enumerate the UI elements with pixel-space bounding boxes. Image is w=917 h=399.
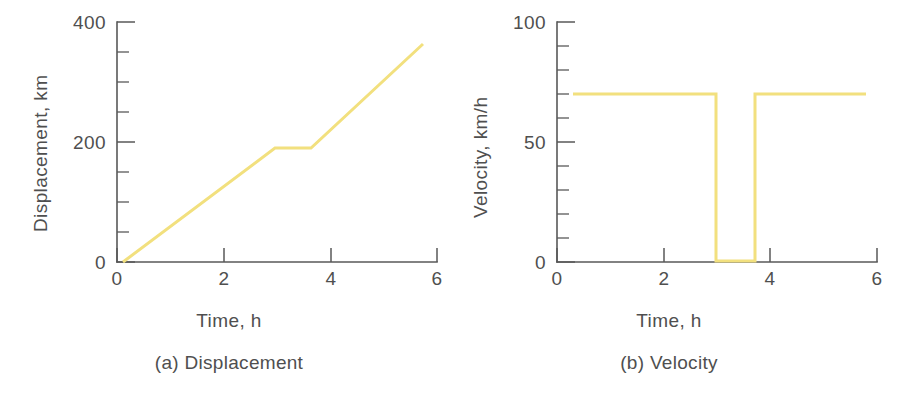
- panel-caption-b: (b) Velocity: [440, 352, 898, 374]
- y-tick-label-0-b: 0: [478, 252, 546, 274]
- figure-container: 400 200 0 0 2 4 6 Displacement, km Time,…: [0, 0, 917, 399]
- x-axis-title-time-b: Time, h: [440, 310, 898, 332]
- x-tick-label-0-b: 0: [537, 268, 577, 290]
- chart-panel-velocity: 100 50 0 0 2 4 6 Velocity, km/h Time, h …: [459, 0, 917, 399]
- x-tick-label-6: 6: [417, 268, 457, 290]
- chart-panel-displacement: 400 200 0 0 2 4 6 Displacement, km Time,…: [0, 0, 458, 399]
- y-tick-label-0: 0: [38, 252, 106, 274]
- x-tick-label-2-b: 2: [644, 268, 684, 290]
- y-axis-major-ticks-b: [557, 22, 575, 262]
- y-tick-label-400: 400: [38, 12, 106, 34]
- y-axis-major-ticks-a: [117, 22, 135, 262]
- x-tick-label-2: 2: [204, 268, 244, 290]
- displacement-data-line: [123, 44, 423, 262]
- y-axis-title-displacement: Displacement, km: [30, 75, 52, 232]
- x-tick-label-4: 4: [311, 268, 351, 290]
- x-tick-label-0: 0: [97, 268, 137, 290]
- velocity-data-line: [573, 94, 866, 261]
- panel-caption-a: (a) Displacement: [0, 352, 458, 374]
- x-tick-label-4-b: 4: [750, 268, 790, 290]
- x-tick-label-6-b: 6: [857, 268, 897, 290]
- x-axis-major-ticks-a: [117, 248, 437, 262]
- x-axis-title-time-a: Time, h: [0, 310, 458, 332]
- y-axis-title-velocity: Velocity, km/h: [470, 97, 492, 218]
- y-tick-label-100: 100: [478, 12, 546, 34]
